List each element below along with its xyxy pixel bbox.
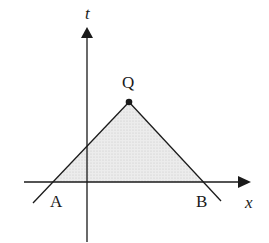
diagram-canvas: t x Q A B xyxy=(0,0,269,243)
t-axis-arrow-icon xyxy=(81,27,93,38)
x-axis-label: x xyxy=(244,193,253,212)
t-axis-label: t xyxy=(85,4,91,23)
triangle-diagram: t x Q A B xyxy=(0,0,269,243)
x-axis-arrow-icon xyxy=(238,176,251,188)
point-a-label: A xyxy=(50,192,63,211)
point-q-label: Q xyxy=(122,73,134,92)
shaded-triangle-region xyxy=(54,102,202,182)
point-b-label: B xyxy=(196,192,207,211)
point-q-dot xyxy=(126,99,133,106)
